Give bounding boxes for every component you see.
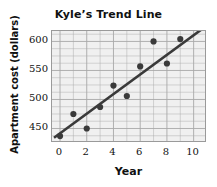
- x-tick-label: 10: [183, 147, 203, 157]
- x-axis-title: Year: [51, 165, 206, 178]
- x-tick-label: 2: [76, 147, 96, 157]
- x-tick-label: 4: [102, 147, 122, 157]
- x-tick-label: 8: [156, 147, 176, 157]
- x-axis-tick-labels: 0246810: [0, 0, 217, 187]
- scatter-plot-figure: Kyle’s Trend Line Apartment cost (dollar…: [0, 0, 217, 187]
- x-tick-label: 0: [49, 147, 69, 157]
- x-tick-label: 6: [129, 147, 149, 157]
